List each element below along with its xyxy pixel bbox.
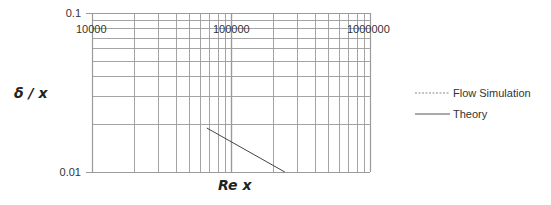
y-axis-title: δ / x	[14, 85, 48, 101]
y-tick-0.1: 0.1	[66, 7, 81, 19]
legend: Flow Simulation Theory	[415, 87, 531, 120]
x-tick-1000000: 1000000	[347, 23, 390, 35]
legend-label-theory: Theory	[453, 108, 488, 120]
grid-lines	[86, 13, 371, 173]
chart: 0.1 0.01 10000 100000 1000000 δ / x Re x…	[0, 0, 551, 205]
x-tick-100000: 100000	[213, 23, 250, 35]
x-tick-10000: 10000	[76, 23, 107, 35]
y-tick-0.01: 0.01	[60, 166, 81, 178]
x-axis-title: Re x	[218, 177, 252, 193]
legend-label-flow-simulation: Flow Simulation	[453, 87, 531, 99]
